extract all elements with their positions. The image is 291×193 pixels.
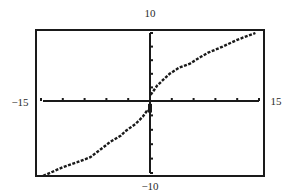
xmax-label: 15 bbox=[271, 95, 283, 107]
ymax-label: 10 bbox=[145, 7, 157, 19]
ymin-label: −10 bbox=[141, 180, 159, 192]
graphing-calculator-plot: 10 −10 −15 15 bbox=[0, 0, 291, 193]
axes bbox=[43, 33, 259, 173]
xmin-label: −15 bbox=[11, 96, 29, 108]
origin-steep-segment bbox=[148, 104, 152, 113]
